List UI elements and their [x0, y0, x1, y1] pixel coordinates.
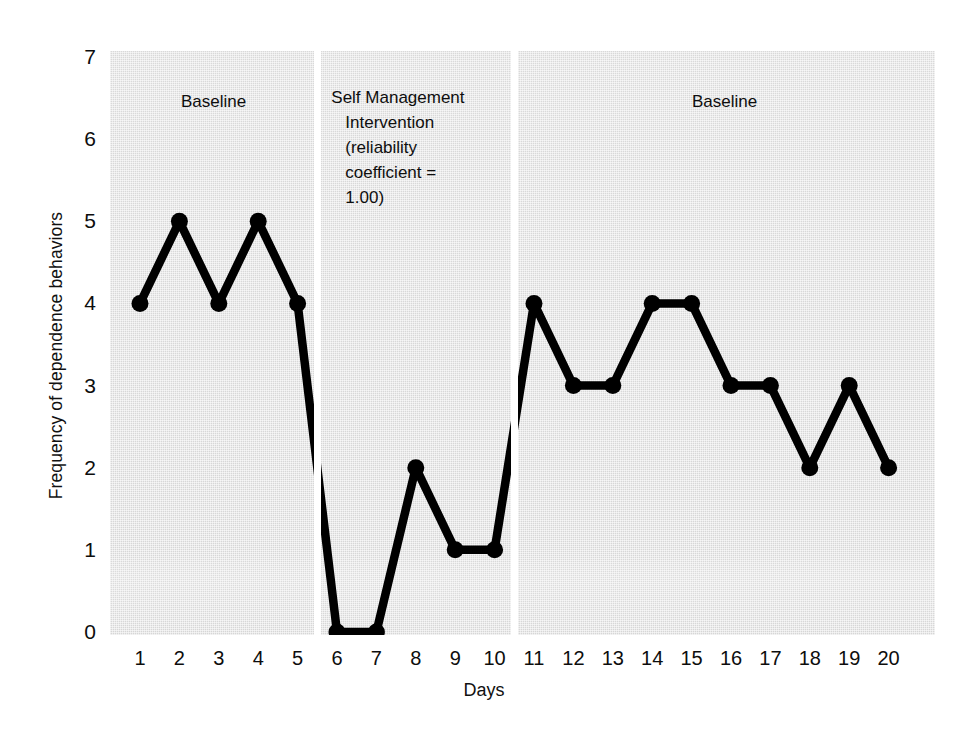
x-tick-label-16: 16 — [711, 648, 751, 668]
x-tick-label-14: 14 — [632, 648, 672, 668]
x-tick-label-18: 18 — [790, 648, 830, 668]
x-tick-label-1: 1 — [120, 648, 160, 668]
x-tick-label-3: 3 — [199, 648, 239, 668]
x-tick-label-17: 17 — [750, 648, 790, 668]
x-tick-label-4: 4 — [238, 648, 278, 668]
x-tick-label-2: 2 — [159, 648, 199, 668]
x-tick-label-7: 7 — [356, 648, 396, 668]
single-subject-line-chart: Frequency of dependence behaviors 765432… — [0, 0, 968, 739]
x-tick-label-15: 15 — [672, 648, 712, 668]
x-tick-label-12: 12 — [553, 648, 593, 668]
x-tick-label-20: 20 — [869, 648, 909, 668]
x-axis-title: Days — [0, 680, 968, 701]
x-tick-label-19: 19 — [829, 648, 869, 668]
x-tick-label-8: 8 — [396, 648, 436, 668]
x-tick-label-11: 11 — [514, 648, 554, 668]
x-axis-tick-labels: 1234567891011121314151617181920 — [0, 0, 968, 739]
x-tick-label-10: 10 — [475, 648, 515, 668]
x-tick-label-5: 5 — [278, 648, 318, 668]
x-tick-label-6: 6 — [317, 648, 357, 668]
x-tick-label-9: 9 — [435, 648, 475, 668]
x-tick-label-13: 13 — [593, 648, 633, 668]
